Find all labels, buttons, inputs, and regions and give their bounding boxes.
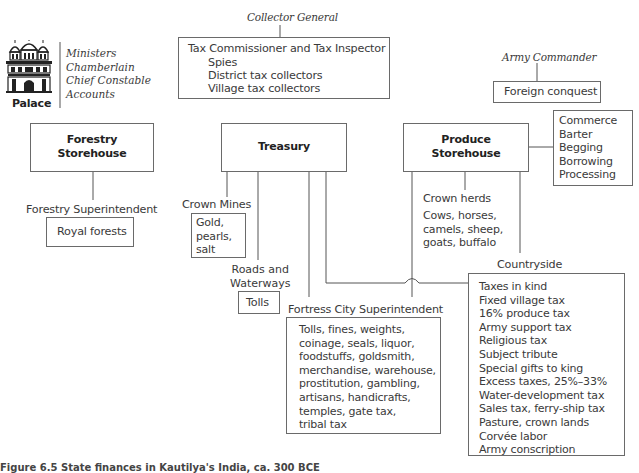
royal-forests-box: Royal forests xyxy=(46,217,134,247)
tolls-text: Tolls xyxy=(246,296,269,310)
official-chief-constable: Chief Constable xyxy=(66,74,151,88)
official-accounts: Accounts xyxy=(66,88,151,102)
fortress-city-box: Tolls, fines, weights, coinage, seals, l… xyxy=(286,317,441,434)
district-collectors-item: District tax collectors xyxy=(208,69,322,83)
figure-caption: Figure 6.5 State finances in Kautilya's … xyxy=(0,462,320,473)
forestry-superintendent-label: Forestry Superintendent xyxy=(26,203,157,217)
crown-herds-label: Crown herds xyxy=(423,192,491,206)
countryside-item: 16% produce tax xyxy=(479,307,607,321)
royal-forests-text: Royal forests xyxy=(57,225,127,239)
palace-group: Palace xyxy=(4,40,56,112)
spies-item: Spies xyxy=(208,56,237,70)
countryside-item: Water-development tax xyxy=(479,389,607,403)
countryside-item: Fixed village tax xyxy=(479,294,607,308)
palace-icon xyxy=(4,40,54,94)
produce-storehouse-title: Produce Storehouse xyxy=(404,133,528,161)
countryside-item: Special gifts to king xyxy=(479,362,607,376)
countryside-item: Army support tax xyxy=(479,321,607,335)
treasury-title: Treasury xyxy=(222,140,346,154)
fortress-item: tribal tax xyxy=(299,418,436,432)
countryside-item: Sales tax, ferry-ship tax xyxy=(479,402,607,416)
countryside-item: Pasture, crown lands xyxy=(479,416,607,430)
source-processing: Processing xyxy=(559,168,617,182)
tolls-box: Tolls xyxy=(238,291,280,314)
fortress-item: artisans, handicrafts, xyxy=(299,391,436,405)
forestry-storehouse-title: Forestry Storehouse xyxy=(31,133,153,161)
fortress-city-label: Fortress City Superintendent xyxy=(288,303,443,317)
fortress-item: coinage, seals, liquor, xyxy=(299,337,436,351)
countryside-item: Excess taxes, 25%–33% xyxy=(479,375,607,389)
produce-storehouse-box: Produce Storehouse xyxy=(403,123,529,172)
source-begging: Begging xyxy=(559,141,617,155)
fortress-item: Tolls, fines, weights, xyxy=(299,323,436,337)
palace-label: Palace xyxy=(12,97,51,111)
herd-item: Cows, horses, xyxy=(423,209,503,223)
herd-item: goats, buffalo xyxy=(423,236,503,250)
source-borrowing: Borrowing xyxy=(559,155,617,169)
village-collectors-item: Village tax collectors xyxy=(208,82,320,96)
foreign-conquest-text: Foreign conquest xyxy=(504,85,597,99)
fortress-item: temples, gate tax, xyxy=(299,405,436,419)
other-sources-box: Commerce Barter Begging Borrowing Proces… xyxy=(553,110,633,186)
roads-waterways-label: Roads and Waterways xyxy=(230,263,291,290)
foreign-conquest-box: Foreign conquest xyxy=(493,81,601,103)
fortress-item: foodstuffs, goldsmith, xyxy=(299,350,436,364)
collector-general-label: Collector General xyxy=(247,10,338,24)
countryside-item: Army conscription xyxy=(479,443,607,457)
countryside-label: Countryside xyxy=(497,258,562,272)
official-ministers: Ministers xyxy=(66,47,151,61)
countryside-item: Religious tax xyxy=(479,334,607,348)
fortress-item: prostitution, gambling, xyxy=(299,377,436,391)
herd-item: camels, sheep, xyxy=(423,223,503,237)
official-chamberlain: Chamberlain xyxy=(66,61,151,75)
tax-commissioner-box: Tax Commissioner and Tax Inspector Spies… xyxy=(178,37,390,99)
forestry-storehouse-box: Forestry Storehouse xyxy=(30,123,154,172)
source-commerce: Commerce xyxy=(559,114,617,128)
countryside-item: Subject tribute xyxy=(479,348,607,362)
countryside-item: Taxes in kind xyxy=(479,280,607,294)
crown-mines-label: Crown Mines xyxy=(182,198,251,212)
source-barter: Barter xyxy=(559,128,617,142)
crown-mines-item: salt xyxy=(196,243,232,257)
countryside-box: Taxes in kind Fixed village tax 16% prod… xyxy=(468,273,625,456)
crown-mines-item: pearls, xyxy=(196,230,232,244)
crown-mines-box: Gold, pearls, salt xyxy=(191,213,246,258)
fortress-item: merchandise, warehouse, xyxy=(299,364,436,378)
palace-officials: Ministers Chamberlain Chief Constable Ac… xyxy=(66,47,151,101)
countryside-item: Corvée labor xyxy=(479,430,607,444)
crown-mines-item: Gold, xyxy=(196,216,232,230)
crown-herds-list: Cows, horses, camels, sheep, goats, buff… xyxy=(423,209,503,250)
treasury-box: Treasury xyxy=(221,123,347,172)
tax-commissioner-title: Tax Commissioner and Tax Inspector xyxy=(188,42,385,56)
army-commander-label: Army Commander xyxy=(502,50,596,64)
